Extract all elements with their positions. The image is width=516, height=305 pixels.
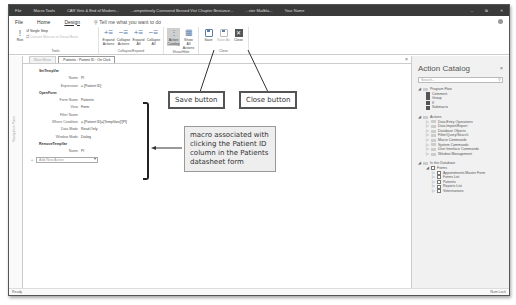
save-button-callout: Save button — [168, 91, 225, 109]
macro-bracket — [143, 102, 149, 180]
macro-callout: macro associated with clicking the Patie… — [184, 126, 276, 172]
close-button-callout: Close button — [239, 91, 297, 109]
